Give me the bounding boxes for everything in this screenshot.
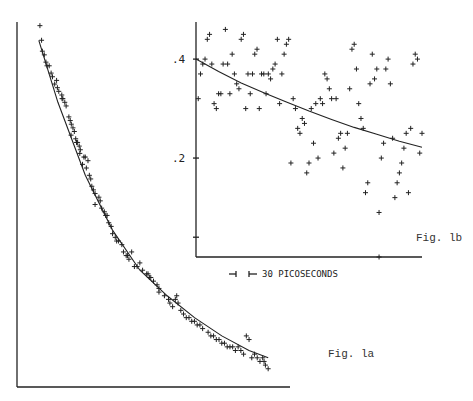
fig1b-data-point [386, 57, 391, 62]
fig1b-data-point [275, 37, 280, 42]
fig1b-data-point [232, 71, 237, 76]
fig1b-data-point [198, 71, 203, 76]
fig1b-data-point [327, 86, 332, 91]
fig1b-data-point [302, 121, 307, 126]
y-tick-label: .4 [172, 53, 186, 66]
fig1b-data-point [261, 71, 266, 76]
fig1a-data-point [129, 249, 134, 254]
fig1a-data-point [211, 333, 216, 338]
fig1b-data-point [284, 42, 289, 47]
fig1b-data-point [377, 255, 382, 260]
fig1b-data-point [257, 106, 262, 111]
fig1a-data-point [170, 304, 175, 309]
fig1a-data-point [151, 279, 156, 284]
fig1b-data-point [203, 57, 208, 62]
fig1b-data-point [270, 67, 275, 72]
fig1b-data-point [399, 161, 404, 166]
fig1b-data-point [291, 96, 296, 101]
fig1b-data-point [225, 62, 230, 67]
fig1b-data-point [309, 106, 314, 111]
fig1b-data-point [277, 101, 282, 106]
fig1b-label: Fig. lb [416, 232, 462, 244]
fig1b-data-point [282, 52, 287, 57]
fig1a-data-point [244, 333, 249, 338]
fig1b-data-point [365, 180, 370, 185]
fig1b-data-point [329, 96, 334, 101]
fig1b-data-point [227, 91, 232, 96]
fig1b-data-point [420, 131, 425, 136]
fig1b-data-point [358, 116, 363, 121]
fig1a-data-point [60, 96, 65, 101]
fig1b-data-point [286, 37, 291, 42]
fig1b-data-point [212, 101, 217, 106]
fig1b-data-point [334, 96, 339, 101]
fig1b-data-point [352, 42, 357, 47]
fig1b-data-point [354, 67, 359, 72]
figure-canvas: .4.2 30 PICOSECONDS Fig. lb Fig. la [0, 0, 473, 401]
fig1b-data-point [410, 62, 415, 67]
fig1a-fit-curve [39, 40, 268, 358]
fig1a-data-point [247, 337, 252, 342]
fig1a-data-point [74, 140, 79, 145]
fig1b-data-point [307, 161, 312, 166]
fig1b-data-point [218, 91, 223, 96]
fig1a-data-point [43, 60, 48, 65]
fig1b-data-point [295, 126, 300, 131]
fig1b-data-point [230, 52, 235, 57]
fig1b-data-point [368, 81, 373, 86]
fig1b-data-point [397, 170, 402, 175]
fig1b-data-point [370, 52, 375, 57]
fig1b-data-point [356, 101, 361, 106]
fig1b-data-point [266, 71, 271, 76]
fig1a-data-point [200, 326, 205, 331]
fig1a-data-point [85, 158, 90, 163]
fig1b-data-point [255, 47, 260, 52]
fig1b-data-point [340, 165, 345, 170]
fig1b-data-point [343, 146, 348, 151]
fig1b-data-point [404, 131, 409, 136]
fig1b-data-point [223, 27, 228, 32]
fig1b-data-point [209, 62, 214, 67]
fig1a-data-point [121, 249, 126, 254]
fig1a-data-point [93, 202, 98, 207]
fig1b-data-point [221, 62, 226, 67]
fig1b-data-point [372, 76, 377, 81]
fig1b-data-point [347, 86, 352, 91]
fig1b-data-point [304, 170, 309, 175]
fig1b-data-point [264, 91, 269, 96]
fig1b-data-point [381, 141, 386, 146]
fig1a-data-point [192, 319, 197, 324]
fig1a-data-point [37, 23, 42, 28]
fig1b-fit-curve [196, 59, 422, 147]
fig1b-data-point [313, 101, 318, 106]
fig1b-data-point [401, 146, 406, 151]
fig1b-data-point [279, 71, 284, 76]
fig1a-data-point [181, 312, 186, 317]
fig1b-data-point [268, 76, 273, 81]
fig1b-data-point [338, 131, 343, 136]
fig1a-data-point [140, 268, 145, 273]
fig1b-data-point [349, 47, 354, 52]
fig1a-data-point [217, 337, 222, 342]
fig1b-data-point [377, 210, 382, 215]
fig1b-data-point [300, 116, 305, 121]
y-tick-label: .2 [172, 152, 185, 165]
fig1a-data-point [137, 260, 142, 265]
fig1a-data-point [255, 355, 260, 360]
fig1b-points [196, 27, 425, 260]
fig1a-axes [17, 22, 290, 387]
fig1a-label: Fig. la [328, 348, 375, 360]
fig1a-data-point [249, 355, 254, 360]
fig1a-data-point [99, 206, 104, 211]
fig1b-data-point [243, 106, 248, 111]
fig1b-y-ticks: .4.2 [172, 53, 199, 237]
scale-bar-label: 30 PICOSECONDS [262, 269, 338, 279]
fig1b-data-point [311, 141, 316, 146]
fig1a-data-point [186, 315, 191, 320]
fig1b-data-point [214, 106, 219, 111]
fig1b-data-point [345, 131, 350, 136]
fig1b-data-point [395, 180, 400, 185]
fig1a-data-point [266, 366, 271, 371]
fig1b-data-point [379, 156, 384, 161]
fig1a-data-point [106, 220, 111, 225]
